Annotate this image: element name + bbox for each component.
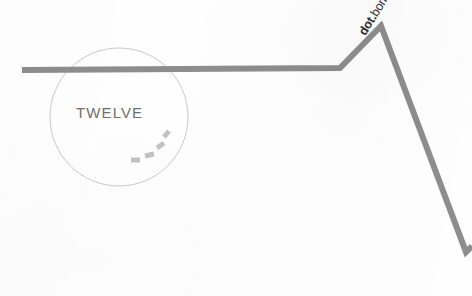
slide-vector-artwork [0,0,472,296]
swoosh-dash-segment [164,131,169,137]
swoosh-dash-segment [157,143,164,148]
dotbomb-trend-line [22,26,472,252]
swoosh-dash-segment [145,154,154,156]
swoosh-dashes [131,131,169,160]
slide-canvas: TWELVE dot.bomb [0,0,472,296]
